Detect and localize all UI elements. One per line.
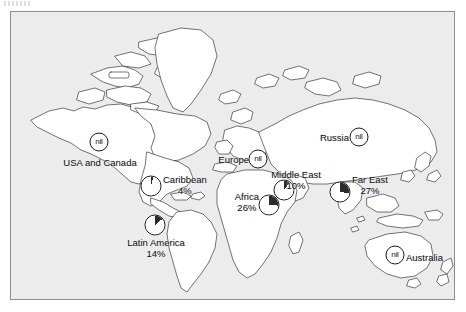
pie-chart-caribbean <box>141 176 162 197</box>
nil-badge-label: nil <box>350 128 369 147</box>
pie-slice <box>146 216 165 235</box>
figure-page: nilUSA and CanadaCaribbean4%Latin Americ… <box>0 0 466 312</box>
pie-marker-latin-america <box>145 215 166 236</box>
region-label-usa-and-canada: USA and Canada <box>63 157 136 168</box>
region-name: USA and Canada <box>63 157 136 168</box>
region-value: 4% <box>163 185 207 196</box>
nil-badge-label: nil <box>249 150 268 169</box>
region-value: 27% <box>352 185 388 196</box>
region-value: 14% <box>127 248 185 259</box>
nil-badge-australia: nil <box>386 246 405 265</box>
region-name: Middle East <box>271 169 321 180</box>
region-name: Europe <box>218 154 249 165</box>
region-label-russia: Russia <box>320 132 349 143</box>
region-label-europe: Europe <box>218 154 249 165</box>
pie-marker-caribbean <box>141 176 162 197</box>
region-label-far-east: Far East27% <box>352 174 388 196</box>
region-value: 26% <box>235 202 259 213</box>
nil-badge-europe: nil <box>249 150 268 169</box>
region-label-caribbean: Caribbean4% <box>163 174 207 196</box>
region-name: Australia <box>406 252 443 263</box>
region-name: Caribbean <box>163 174 207 185</box>
nil-badge-label: nil <box>386 246 405 265</box>
region-label-africa: Africa26% <box>235 191 259 213</box>
region-label-australia: Australia <box>406 252 443 263</box>
region-name: Latin America <box>127 237 185 248</box>
pie-slice <box>142 177 161 196</box>
nil-badge-label: nil <box>90 133 109 152</box>
scan-artifact <box>4 1 30 6</box>
region-value: 10% <box>271 180 321 191</box>
region-label-latin-america: Latin America14% <box>127 237 185 259</box>
world-map-figure: nilUSA and CanadaCaribbean4%Latin Americ… <box>10 11 455 300</box>
pie-slice <box>331 183 350 202</box>
region-label-middle-east: Middle East10% <box>271 169 321 191</box>
nil-badge-russia: nil <box>350 128 369 147</box>
nil-badge-usa-and-canada: nil <box>90 133 109 152</box>
region-name: Russia <box>320 132 349 143</box>
pie-marker-far-east <box>330 182 351 203</box>
pie-chart-far-east <box>330 182 351 203</box>
region-name: Africa <box>235 191 259 202</box>
pie-chart-latin-america <box>145 215 166 236</box>
region-name: Far East <box>352 174 388 185</box>
